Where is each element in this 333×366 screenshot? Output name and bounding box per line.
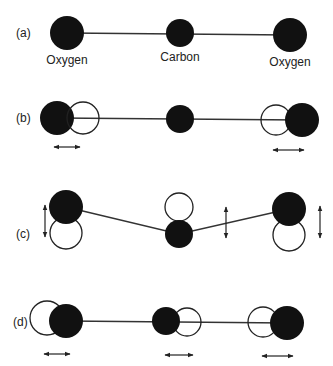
oxygen-atom-left xyxy=(50,16,84,50)
panel-tag-c: (c) xyxy=(16,227,30,241)
panel-tag-b: (b) xyxy=(16,111,31,125)
label-carbon: Carbon xyxy=(160,50,199,64)
oxygen-atom-right xyxy=(272,192,306,226)
label-oxygen-left: Oxygen xyxy=(46,53,87,67)
oxygen-atom-right xyxy=(285,103,319,137)
oxygen-atom-right xyxy=(270,306,304,340)
panel-tag-d: (d) xyxy=(13,315,28,329)
oxygen-atom-right xyxy=(273,18,307,52)
panel-a: (a) Oxygen Carbon Oxygen xyxy=(16,16,311,69)
panel-tag-a: (a) xyxy=(16,26,31,40)
label-oxygen-right: Oxygen xyxy=(269,55,310,69)
oxygen-atom-left xyxy=(49,304,83,338)
oxygen-atom-left xyxy=(49,190,83,224)
carbon-atom xyxy=(165,220,193,248)
displaced-carbon xyxy=(165,193,193,221)
carbon-atom xyxy=(152,307,180,335)
panel-b: (b) xyxy=(16,101,319,150)
co2-vibration-diagram: (a) Oxygen Carbon Oxygen (b) (c) (d) xyxy=(0,0,333,366)
carbon-atom xyxy=(166,19,194,47)
panel-d: (d) xyxy=(13,301,304,356)
oxygen-atom-left xyxy=(40,101,74,135)
panel-c: (c) xyxy=(16,190,320,251)
carbon-atom xyxy=(166,105,194,133)
